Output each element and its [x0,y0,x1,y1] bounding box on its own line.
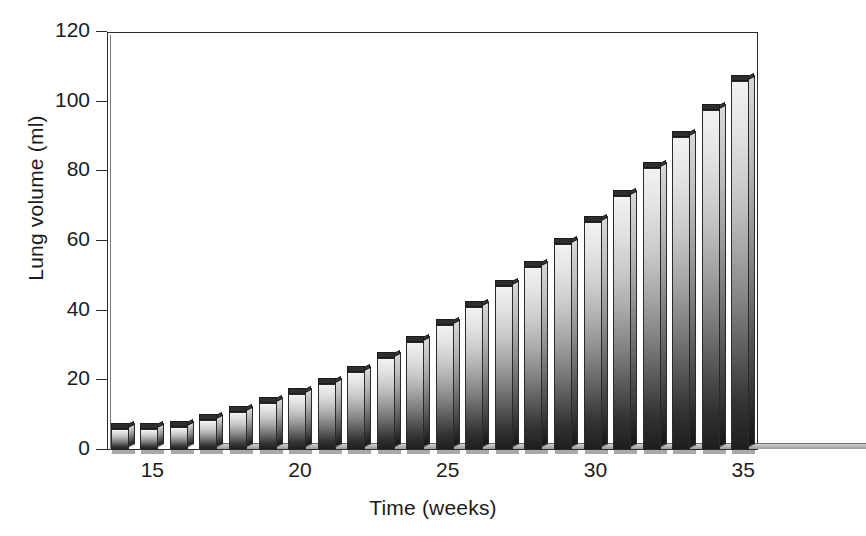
bar-foot-shadow [378,450,401,454]
bar-front-face [672,137,690,451]
bar-top-face [347,366,365,372]
bar-top-face [170,421,188,427]
bar-side-face [542,261,548,447]
bar-top-face [111,423,129,429]
y-axis-tick [96,31,107,32]
bar-top-face [377,352,395,358]
bar [170,427,188,450]
bar-top-face [613,190,631,196]
bar-top-face [495,280,513,286]
bar [199,420,217,450]
bar-front-face [702,110,720,450]
bar-front-face [584,222,602,450]
bar-front-face [465,307,483,450]
bar [140,429,158,450]
bar [347,372,365,450]
bar-front-face [377,358,395,450]
bar-side-face [602,216,608,447]
bar-foot-shadow [525,450,548,454]
bar-front-face [229,412,247,450]
x-axis-tick-label: 35 [713,458,773,482]
bar-foot-shadow [171,450,194,454]
y-axis-tick-label: 40 [16,297,90,321]
bar-side-face [365,366,371,447]
bar [613,196,631,450]
bar-side-face [690,131,696,447]
y-axis-tick [96,379,107,380]
y-axis-tick [96,101,107,102]
bar [495,286,513,450]
bar [702,110,720,450]
bar-front-face [406,342,424,450]
bar-front-face [111,429,129,450]
bar-side-face [631,190,637,447]
bar [377,358,395,450]
bar-foot-shadow [614,450,637,454]
y-axis-tick [96,449,107,450]
bar-top-face [731,75,749,81]
bar-foot-shadow [703,450,726,454]
bar-foot-shadow [200,450,223,454]
bar-top-face [554,238,572,244]
bar-foot-shadow [260,450,283,454]
bar-foot-shadow [673,450,696,454]
x-axis-tick-label: 20 [270,458,330,482]
bar [584,222,602,450]
bar-side-face [720,104,726,447]
bar-foot-shadow [141,450,164,454]
y-axis-tick [96,310,107,311]
bar-side-face [336,378,342,447]
bar-side-face [247,406,253,447]
y-axis-tick-label: 80 [16,157,90,181]
bar-top-face [406,336,424,342]
x-axis-tick-label: 15 [122,458,182,482]
y-axis-tick-label: 20 [16,366,90,390]
bar [111,429,129,450]
bar [259,403,277,450]
bar-side-face [277,397,283,447]
bar-foot-shadow [555,450,578,454]
bar-foot-shadow [319,450,342,454]
bar-front-face [318,384,336,450]
bar-side-face [424,336,430,447]
bar-front-face [524,267,542,450]
bar [465,307,483,450]
bar [731,81,749,450]
x-axis-tick-label: 30 [566,458,626,482]
bar-foot-shadow [348,450,371,454]
bar-side-face [217,414,223,447]
bar [643,168,661,450]
bar-side-face [454,319,460,447]
bar-top-face [436,319,454,325]
bar-top-face [318,378,336,384]
bar-top-face [229,406,247,412]
bar-side-face [188,421,194,447]
bar-front-face [199,420,217,450]
bar-top-face [259,397,277,403]
bar [318,384,336,450]
bar-top-face [140,423,158,429]
bar-side-face [395,352,401,447]
bar-front-face [170,427,188,450]
bar-foot-shadow [230,450,253,454]
bar-top-face [465,301,483,307]
bar-side-face [749,75,755,447]
x-axis-title: Time (weeks) [107,496,759,520]
bar-foot-shadow [407,450,430,454]
bar-foot-shadow [496,450,519,454]
bar-foot-shadow [644,450,667,454]
bar-front-face [731,81,749,450]
bar-top-face [524,261,542,267]
bar-top-face [672,131,690,137]
x-axis-tick-label: 25 [418,458,478,482]
bar-front-face [140,429,158,450]
bar-top-face [584,216,602,222]
bar-side-face [306,388,312,447]
bar-side-face [572,239,578,447]
bar [554,244,572,450]
bar-front-face [495,286,513,450]
bar [524,267,542,450]
bar-front-face [613,196,631,450]
bar-foot-shadow [732,450,755,454]
